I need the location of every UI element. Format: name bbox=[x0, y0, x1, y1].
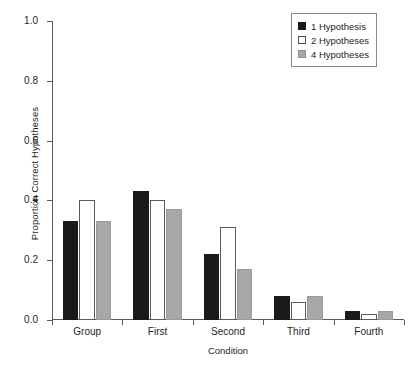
legend-label: 4 Hypotheses bbox=[311, 49, 369, 60]
bar-second-series1 bbox=[204, 254, 220, 320]
x-tick-label-first: First bbox=[148, 326, 167, 337]
x-tick-mark bbox=[122, 320, 123, 325]
x-tick-label-third: Third bbox=[287, 326, 310, 337]
y-tick-label: 0.2 bbox=[12, 254, 38, 265]
y-tick-label: 0.0 bbox=[12, 314, 38, 325]
bar-fourth-series2 bbox=[361, 314, 377, 320]
y-axis-tick-labels: 0.00.20.40.60.81.0 bbox=[8, 0, 38, 368]
bar-first-series2 bbox=[150, 200, 166, 320]
bar-fourth-series3 bbox=[378, 311, 394, 320]
x-tick-label-second: Second bbox=[211, 326, 245, 337]
y-tick-label: 0.6 bbox=[12, 135, 38, 146]
bar-third-series3 bbox=[307, 296, 323, 320]
x-tick-mark bbox=[334, 320, 335, 325]
bar-group-series3 bbox=[96, 221, 112, 320]
legend-swatch-icon bbox=[298, 50, 306, 58]
x-tick-mark bbox=[404, 320, 405, 325]
legend-item-3[interactable]: 4 Hypotheses bbox=[298, 47, 369, 61]
bar-group-series2 bbox=[79, 200, 95, 320]
bar-fourth-series1 bbox=[345, 311, 361, 320]
x-tick-mark bbox=[52, 320, 53, 325]
x-tick-label-fourth: Fourth bbox=[354, 326, 383, 337]
bar-second-series2 bbox=[220, 227, 236, 320]
bar-third-series1 bbox=[274, 296, 290, 320]
y-tick-label: 1.0 bbox=[12, 15, 38, 26]
bar-third-series2 bbox=[291, 302, 307, 320]
bar-second-series3 bbox=[237, 269, 253, 320]
chart-legend: 1 Hypothesis2 Hypotheses4 Hypotheses bbox=[291, 13, 377, 67]
x-tick-mark bbox=[193, 320, 194, 325]
legend-item-2[interactable]: 2 Hypotheses bbox=[298, 33, 369, 47]
x-tick-mark bbox=[263, 320, 264, 325]
y-tick-label: 0.4 bbox=[12, 194, 38, 205]
x-axis-title: Condition bbox=[52, 345, 404, 356]
x-axis-tick-labels: GroupFirstSecondThirdFourth bbox=[52, 326, 404, 342]
y-tick-label: 0.8 bbox=[12, 75, 38, 86]
legend-label: 1 Hypothesis bbox=[311, 21, 366, 32]
legend-swatch-icon bbox=[298, 36, 306, 44]
bar-first-series1 bbox=[133, 191, 149, 320]
legend-swatch-icon bbox=[298, 22, 306, 30]
x-tick-label-group: Group bbox=[73, 326, 101, 337]
bar-group-series1 bbox=[63, 221, 79, 320]
legend-item-1[interactable]: 1 Hypothesis bbox=[298, 19, 369, 33]
bar-first-series3 bbox=[166, 209, 182, 320]
bar-chart-figure: Proportion Correct Hypotheses 0.00.20.40… bbox=[0, 0, 412, 368]
legend-label: 2 Hypotheses bbox=[311, 35, 369, 46]
